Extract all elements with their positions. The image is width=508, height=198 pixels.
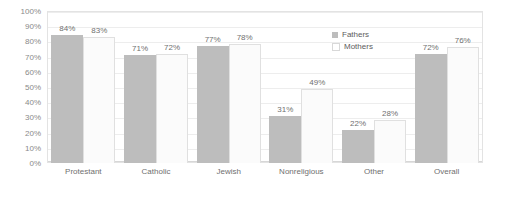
bar-fathers-overall[interactable] (415, 54, 447, 163)
chart-legend: FathersMothers (332, 30, 373, 51)
y-axis-tick-label: 80% (0, 37, 41, 46)
bar-value-label: 71% (132, 44, 148, 53)
bar-mothers-nonreligious[interactable] (301, 89, 333, 163)
legend-item-label: Mothers (344, 42, 373, 51)
legend-item-label: Fathers (342, 30, 369, 39)
bar-value-label: 28% (382, 109, 398, 118)
bar-fathers-jewish[interactable] (197, 46, 229, 163)
bar-wrapper: 28% (374, 11, 406, 163)
bar-value-label: 84% (59, 24, 75, 33)
bar-mothers-other[interactable] (374, 120, 406, 163)
bar-wrapper: 78% (229, 11, 261, 163)
bar-value-label: 78% (237, 33, 253, 42)
y-axis-tick-label: 50% (0, 83, 41, 92)
bar-group: 31%49% (265, 11, 338, 163)
bar-group: 72%76% (410, 11, 483, 163)
y-axis-tick-label: 30% (0, 113, 41, 122)
y-axis-tick-label: 0% (0, 159, 41, 168)
bar-group: 84%83% (47, 11, 120, 163)
legend-item[interactable]: Fathers (332, 30, 373, 39)
x-axis-category-label: Jewish (192, 167, 265, 176)
bar-groups: 84%83%71%72%77%78%31%49%22%28%72%76% (47, 11, 483, 163)
x-axis-category-label: Catholic (120, 167, 193, 176)
bar-wrapper: 77% (197, 11, 229, 163)
bar-fathers-nonreligious[interactable] (269, 116, 301, 163)
bar-value-label: 76% (455, 36, 471, 45)
x-axis-category-label: Overall (410, 167, 483, 176)
x-axis-category-label: Protestant (47, 167, 120, 176)
bar-wrapper: 49% (301, 11, 333, 163)
bar-wrapper: 83% (83, 11, 115, 163)
y-axis-tick-label: 20% (0, 128, 41, 137)
bar-wrapper: 31% (269, 11, 301, 163)
grouped-bar-chart: 100%90%80%70%60%50%40%30%20%10%0% 84%83%… (0, 0, 508, 198)
bar-value-label: 49% (309, 78, 325, 87)
bar-fathers-protestant[interactable] (51, 35, 83, 163)
bar-wrapper: 72% (156, 11, 188, 163)
bar-mothers-overall[interactable] (447, 47, 479, 163)
y-axis-tick-label: 40% (0, 98, 41, 107)
x-axis-category-label: Other (338, 167, 411, 176)
bar-value-label: 72% (423, 43, 439, 52)
bar-value-label: 22% (350, 119, 366, 128)
bar-wrapper: 72% (415, 11, 447, 163)
bar-group: 77%78% (192, 11, 265, 163)
bar-value-label: 83% (91, 26, 107, 35)
bar-value-label: 72% (164, 43, 180, 52)
y-axis-tick-label: 60% (0, 67, 41, 76)
bar-mothers-protestant[interactable] (83, 37, 115, 163)
x-axis-category-label: Nonreligious (265, 167, 338, 176)
y-axis-tick-label: 10% (0, 143, 41, 152)
outlined-white-square-icon (332, 43, 340, 51)
bar-fathers-catholic[interactable] (124, 55, 156, 163)
bar-wrapper: 71% (124, 11, 156, 163)
bar-wrapper: 84% (51, 11, 83, 163)
bar-value-label: 31% (277, 105, 293, 114)
y-axis-tick-label: 90% (0, 22, 41, 31)
legend-item[interactable]: Mothers (332, 42, 373, 51)
bar-fathers-other[interactable] (342, 130, 374, 163)
bar-value-label: 77% (205, 35, 221, 44)
y-axis-tick-label: 100% (0, 7, 41, 16)
y-axis-tick-label: 70% (0, 52, 41, 61)
bar-wrapper: 76% (447, 11, 479, 163)
bar-mothers-catholic[interactable] (156, 54, 188, 163)
filled-gray-square-icon (332, 32, 338, 38)
bar-mothers-jewish[interactable] (229, 44, 261, 163)
x-axis-labels: ProtestantCatholicJewishNonreligiousOthe… (47, 167, 483, 176)
bar-group: 71%72% (120, 11, 193, 163)
